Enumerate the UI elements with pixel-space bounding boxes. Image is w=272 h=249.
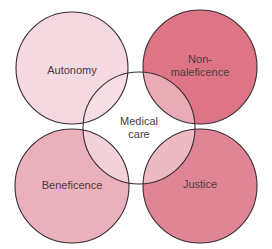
non-maleficence-label-line2: maleficence [171,66,230,79]
beneficence-label: Beneficence [42,179,103,192]
justice-label: Justice [183,178,217,191]
medical-care-label-line1: Medical [120,115,158,128]
medical-care-label-line2: care [120,128,158,141]
autonomy-label: Autonomy [47,64,97,77]
medical-care-label: Medical care [120,115,158,141]
non-maleficence-label-line1: Non- [171,53,230,66]
non-maleficence-label: Non- maleficence [171,53,230,79]
